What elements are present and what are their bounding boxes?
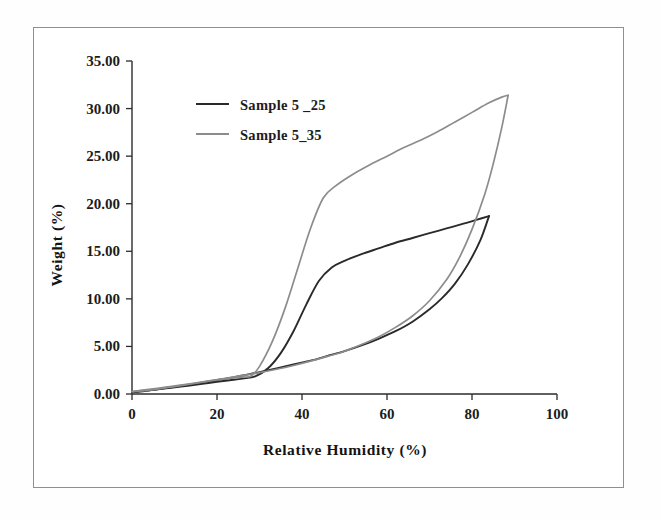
x-tick-label: 20 [210, 406, 225, 422]
y-tick-label: 35.00 [86, 53, 120, 69]
y-tick-label: 15.00 [86, 243, 120, 259]
x-tick-label: 100 [546, 406, 569, 422]
axes [126, 61, 557, 400]
series-0 [132, 216, 489, 392]
x-axis-title: Relative Humidity (%) [263, 441, 427, 459]
y-tick-label: 5.00 [94, 338, 120, 354]
x-tick-label: 40 [295, 406, 310, 422]
x-tick-label: 60 [380, 406, 395, 422]
legend-label-1: Sample 5_35 [240, 127, 322, 143]
y-tick-label: 0.00 [94, 386, 120, 402]
series-0-desorption-line [132, 216, 489, 392]
weight-vs-relative-humidity-chart: 0.005.0010.0015.0020.0025.0030.0035.00 0… [0, 0, 661, 520]
y-tick-label: 25.00 [86, 148, 120, 164]
y-tick-label: 10.00 [86, 291, 120, 307]
chart-legend: Sample 5 _25Sample 5_35 [196, 97, 326, 143]
legend-label-0: Sample 5 _25 [240, 97, 326, 113]
y-axis-title: Weight (%) [48, 203, 66, 286]
chart-canvas: 0.005.0010.0015.0020.0025.0030.0035.00 0… [0, 0, 661, 520]
x-axis-tick-labels: 020406080100 [128, 406, 568, 422]
y-axis-ticks [126, 61, 132, 394]
y-tick-label: 20.00 [86, 196, 120, 212]
figure-page: 0.005.0010.0015.0020.0025.0030.0035.00 0… [0, 0, 661, 520]
legend-item-1: Sample 5_35 [196, 127, 322, 143]
x-tick-label: 80 [465, 406, 480, 422]
x-axis-ticks [132, 394, 557, 400]
legend-item-0: Sample 5 _25 [196, 97, 326, 113]
x-tick-label: 0 [128, 406, 136, 422]
y-tick-label: 30.00 [86, 101, 120, 117]
y-axis-tick-labels: 0.005.0010.0015.0020.0025.0030.0035.00 [86, 53, 120, 402]
